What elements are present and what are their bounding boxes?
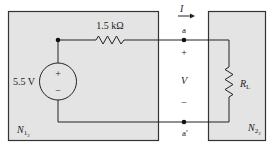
voltage-plus-sign: +	[181, 47, 187, 58]
circuit-diagram: 1.5 kΩ 5.5 V + − I a a′ + V − RL N12 N22	[0, 0, 272, 159]
terminal-a-prime-dot	[182, 120, 187, 125]
network-n2-box	[209, 12, 266, 141]
node-dot-left	[56, 38, 61, 43]
terminal-a-dot	[182, 38, 187, 43]
terminal-a-prime-label: a′	[182, 128, 188, 138]
current-label: I	[179, 3, 184, 14]
voltage-minus-sign: −	[181, 97, 187, 108]
source-voltage-label: 5.5 V	[13, 76, 36, 87]
current-arrow-icon	[178, 14, 195, 19]
series-resistor-label: 1.5 kΩ	[96, 20, 123, 31]
source-plus-sign: +	[55, 68, 61, 79]
terminal-a-label: a	[182, 25, 186, 35]
source-minus-sign: −	[55, 85, 61, 96]
voltage-label: V	[181, 75, 189, 86]
